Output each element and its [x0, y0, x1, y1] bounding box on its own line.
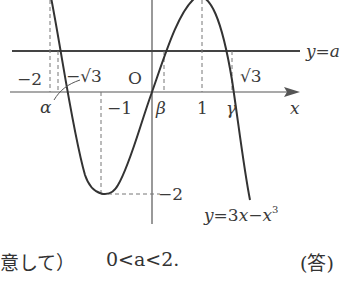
label-neg-sqrt3: −√3 — [66, 66, 102, 86]
label-y-neg2: −2 — [158, 184, 183, 204]
line-label-y-equals-a: y=a — [305, 41, 340, 61]
root-alpha: α — [40, 97, 52, 117]
root-gamma: γ — [226, 98, 237, 118]
answer-inequality: 0<a<2. — [106, 248, 179, 270]
label-neg1: −1 — [107, 98, 132, 118]
cubic-graph-diagram: −2 −√3 O −1 1 √3 −2 α β γ x y=a y=3x−x3 — [0, 0, 352, 248]
label-one: 1 — [197, 98, 208, 118]
label-sqrt3: √3 — [240, 66, 262, 86]
cubic-curve — [50, 0, 251, 200]
dashed-guides — [50, 0, 232, 194]
answer-caption: 意して） 0<a<2. (答) — [0, 248, 352, 278]
x-axis-label: x — [290, 98, 300, 118]
origin-label: O — [128, 68, 142, 88]
root-beta: β — [155, 98, 166, 118]
curve-label: y=3x−x3 — [203, 204, 278, 225]
caption-fragment: 意して） — [0, 248, 75, 275]
label-neg2: −2 — [17, 69, 42, 89]
answer-tag: (答) — [300, 248, 334, 275]
